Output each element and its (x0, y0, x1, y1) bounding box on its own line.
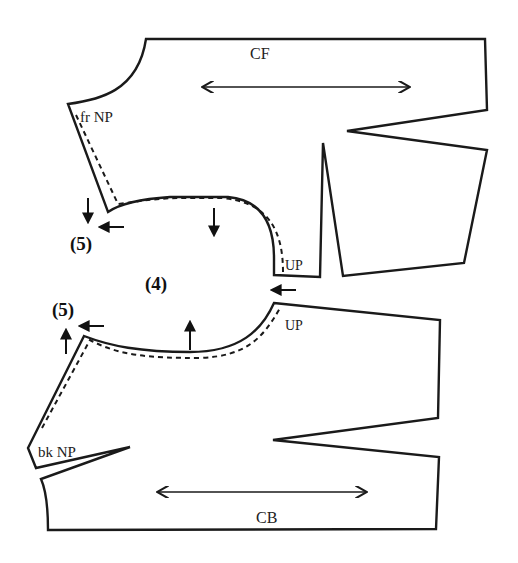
adjustment-arrows (66, 198, 296, 354)
back-outline (28, 303, 440, 530)
pattern-diagram: CF fr NP UP CB bk NP UP (5) (4) (5) (0, 0, 518, 563)
cb-label: CB (256, 509, 277, 526)
front-bodice-piece: CF fr NP UP (68, 39, 487, 277)
back-neck-point-label: bk NP (38, 444, 76, 460)
back-adjusted-armhole-dashed (42, 308, 280, 428)
cf-label: CF (250, 45, 270, 62)
step-marker-back-shoulder: (5) (52, 299, 74, 321)
step-marker-front-shoulder: (5) (70, 233, 92, 255)
front-outline (68, 39, 487, 277)
front-adjusted-armhole-dashed (76, 115, 283, 272)
front-neck-point-label: fr NP (80, 109, 113, 125)
back-underarm-label: UP (285, 318, 303, 333)
back-bodice-piece: CB bk NP UP (28, 303, 440, 530)
front-underarm-label: UP (285, 258, 303, 273)
step-marker-armhole: (4) (145, 273, 167, 295)
